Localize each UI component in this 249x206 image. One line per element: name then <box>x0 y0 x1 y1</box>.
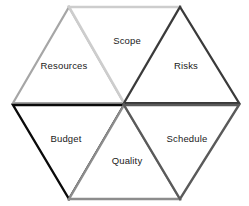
schedule-label: Schedule <box>167 133 208 144</box>
risks-label: Risks <box>174 60 198 71</box>
quality-label: Quality <box>112 155 143 166</box>
hexagon-diagram: Resources Scope Risks Budget Quality Sch… <box>0 0 249 206</box>
resources-label: Resources <box>41 60 88 71</box>
budget-label: Budget <box>50 133 81 144</box>
scope-label: Scope <box>113 35 141 46</box>
hexagon-diagram-canvas: Resources Scope Risks Budget Quality Sch… <box>0 0 249 206</box>
